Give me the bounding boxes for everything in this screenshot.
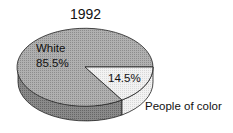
label-white-value: 85.5%: [36, 57, 69, 70]
label-poc-name: People of color: [145, 100, 222, 113]
pie-chart: [0, 0, 233, 133]
label-white-name: White: [36, 42, 65, 55]
label-poc-value: 14.5%: [108, 72, 141, 85]
